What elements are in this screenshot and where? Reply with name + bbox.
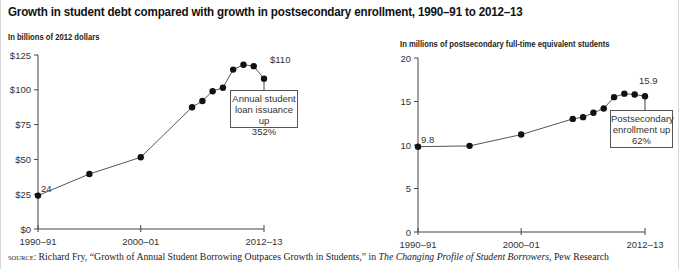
enrollment-y-tick-label: 5 [406,183,411,194]
loans-data-point [199,98,205,104]
enrollment-point-label: 9.8 [421,134,434,145]
annotation-line: loan issuance up [231,104,297,126]
annotation-line: Postsecondary [611,113,672,124]
loans-data-point [230,66,236,72]
loans-point-label: 24 [41,183,52,194]
loans-y-tick-label: $25 [15,189,31,200]
enrollment-x-tick-label: 1990–91 [400,239,437,250]
enrollment-data-point [621,90,627,96]
enrollment-data-point [642,93,648,99]
source-citation: source: Richard Fry, “Growth of Annual S… [8,251,609,262]
enrollment-data-point [570,116,576,122]
loans-y-tick-label: $75 [15,119,31,130]
annotation-line: 352% [231,126,297,137]
loans-point-label: $110 [270,54,290,65]
loans-data-point [240,62,246,68]
loans-x-tick-label: 1990–91 [20,236,57,247]
loans-data-point [220,85,226,91]
enrollment-data-point [580,114,586,120]
loans-data-point [189,104,195,110]
enrollment-data-point [631,91,637,97]
loans-x-tick-label: 2000–01 [122,236,159,247]
enrollment-data-point [611,94,617,100]
enrollment-data-point [518,131,524,137]
source-publication: The Changing Profile of Student Borrower… [379,251,549,262]
loans-data-point [209,88,215,94]
enrollment-data-point [590,110,596,116]
enrollment-y-tick-label: 0 [406,227,411,238]
enrollment-data-point [601,105,607,111]
left-chart-annotation: Annual student loan issuance up 352% [230,90,298,128]
enrollment-y-tick-label: 10 [400,140,411,151]
annotation-line: Annual student [231,93,297,104]
loans-data-point [251,63,257,69]
enrollment-y-tick-label: 15 [400,96,411,107]
source-text: Richard Fry, “Growth of Annual Student B… [36,251,378,262]
loans-y-tick-label: $0 [20,224,31,235]
loans-y-tick-label: $100 [10,84,31,95]
right-chart-annotation: Postsecondary enrollment up 62% [610,110,673,148]
loans-data-point [138,154,144,160]
enrollment-x-tick-label: 2012–13 [627,239,664,250]
enrollment-point-label: 15.9 [639,75,658,86]
loans-y-tick-label: $125 [10,50,31,61]
annotation-line: 62% [611,135,672,146]
loans-data-point [261,75,267,81]
charts-canvas: $0$25$50$75$100$1251990–912000–012012–13… [0,0,681,269]
enrollment-y-tick-label: 20 [400,53,411,64]
annotation-line: enrollment up [611,124,672,135]
loans-data-point [86,171,92,177]
enrollment-x-tick-label: 2000–01 [503,239,540,250]
loans-x-tick-label: 2012–13 [246,236,283,247]
source-text-end: , Pew Research [549,251,609,262]
enrollment-data-point [466,143,472,149]
loans-y-tick-label: $50 [15,154,31,165]
source-label: source: [8,252,36,262]
